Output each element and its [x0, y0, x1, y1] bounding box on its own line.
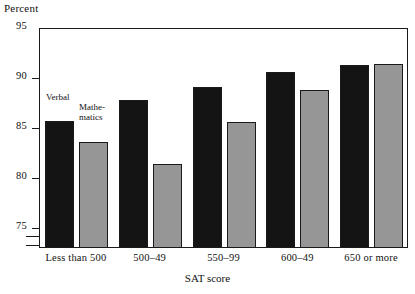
- bar-mathematics: [374, 64, 403, 248]
- y-axis: 95 90 85 80 75: [0, 0, 39, 294]
- bar-group: [113, 28, 187, 248]
- y-axis-break-icon: [26, 236, 40, 248]
- y-tick-label-90: 90: [1, 70, 27, 81]
- x-tick-label: 650 or more: [334, 252, 408, 263]
- x-tick-label: Less than 500: [39, 252, 113, 263]
- y-tick-label-95: 95: [1, 20, 27, 31]
- bar-verbal: [119, 100, 148, 248]
- y-tick-mark-80: [32, 178, 39, 179]
- bar-group: [39, 28, 113, 248]
- y-tick-label-75: 75: [1, 220, 27, 231]
- bar-verbal: [266, 72, 295, 248]
- y-tick-mark-90: [32, 78, 39, 79]
- bar-verbal: [340, 65, 369, 248]
- y-tick-mark-75: [32, 228, 39, 229]
- axis-break-line-upper: [26, 236, 40, 237]
- y-tick-label-80: 80: [1, 170, 27, 181]
- bar-verbal: [45, 121, 74, 248]
- bars-layer: [39, 28, 408, 248]
- x-tick-label: 500–49: [113, 252, 187, 263]
- x-tick-label: 550–99: [187, 252, 261, 263]
- legend-label-verbal: Verbal: [46, 92, 70, 102]
- bar-group: [334, 28, 408, 248]
- x-axis-tick-labels: Less than 500500–49550–99600–49650 or mo…: [39, 252, 408, 270]
- axis-break-line-lower: [26, 245, 40, 246]
- legend-label-mathematics: Mathe- matics: [79, 102, 105, 122]
- legend-label-mathematics-line2: matics: [79, 112, 105, 122]
- x-tick-label: 600–49: [260, 252, 334, 263]
- bar-verbal: [193, 87, 222, 248]
- x-axis-title: SAT score: [0, 272, 415, 284]
- y-tick-mark-85: [32, 128, 39, 129]
- bar-mathematics: [153, 164, 182, 248]
- bar-group: [260, 28, 334, 248]
- bar-mathematics: [79, 142, 108, 248]
- y-tick-label-85: 85: [1, 120, 27, 131]
- bar-mathematics: [300, 90, 329, 248]
- bar-mathematics: [227, 122, 256, 248]
- legend-label-mathematics-line1: Mathe-: [79, 102, 105, 112]
- bar-group: [187, 28, 261, 248]
